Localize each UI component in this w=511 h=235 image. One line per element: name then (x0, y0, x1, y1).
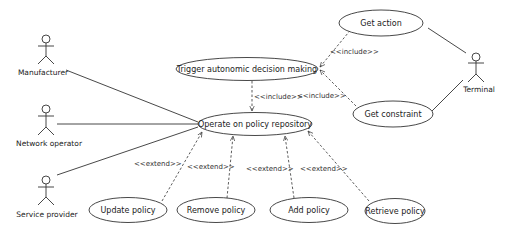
include-label-get-constraint: <<include>> (297, 92, 346, 100)
use-case-retrieve: Retrieve policy (365, 199, 425, 224)
actor-terminal-label: Terminal (462, 85, 495, 94)
actor-network-operator-label: Network operator (16, 139, 83, 148)
use-case-get-constraint-label: Get constraint (364, 110, 421, 119)
extend-label-update: <<extend>> (134, 160, 182, 168)
actor-manufacturer-label: Manufacturer (18, 68, 69, 77)
use-case-remove: Remove policy (177, 198, 255, 223)
association-terminal-get-constraint (430, 80, 463, 113)
actor-manufacturer: Manufacturer (18, 35, 69, 77)
use-case-update: Update policy (89, 198, 167, 223)
use-case-add-label: Add policy (288, 206, 330, 215)
association-manufacturer-operate (66, 70, 198, 122)
use-case-get-action-label: Get action (360, 19, 401, 28)
use-case-get-action: Get action (339, 10, 423, 36)
extend-label-add: <<extend>> (246, 165, 294, 173)
actor-service-provider-label: Service provider (16, 210, 78, 219)
include-label-trigger-operate: <<include>> (254, 93, 303, 101)
extend-label-remove: <<extend>> (187, 163, 235, 171)
actor-terminal: Terminal (462, 53, 495, 94)
use-case-update-label: Update policy (100, 206, 155, 215)
actor-network-operator: Network operator (16, 105, 83, 148)
use-case-retrieve-label: Retrieve policy (365, 207, 425, 216)
stick-figure-icon (38, 176, 54, 205)
association-terminal-get-action (428, 28, 466, 53)
use-case-get-constraint: Get constraint (353, 101, 433, 127)
stick-figure-icon (38, 35, 54, 64)
actor-service-provider: Service provider (16, 176, 78, 219)
use-case-trigger: Trigger autonomic decision making (176, 58, 318, 81)
use-case-trigger-label: Trigger autonomic decision making (176, 65, 317, 74)
use-case-remove-label: Remove policy (187, 206, 246, 215)
include-label-get-action: <<include>> (330, 48, 379, 56)
use-case-add: Add policy (270, 198, 348, 223)
use-case-diagram: <<include>> <<include>> <<include>> <<ex… (0, 0, 511, 235)
include-get-action (320, 27, 353, 67)
use-case-operate: Operate on policy repository (198, 113, 312, 136)
use-case-operate-label: Operate on policy repository (198, 120, 312, 129)
extend-label-retrieve: <<extend>> (300, 165, 348, 173)
stick-figure-icon (38, 105, 54, 135)
include-get-constraint (320, 70, 356, 106)
stick-figure-icon (468, 53, 484, 82)
